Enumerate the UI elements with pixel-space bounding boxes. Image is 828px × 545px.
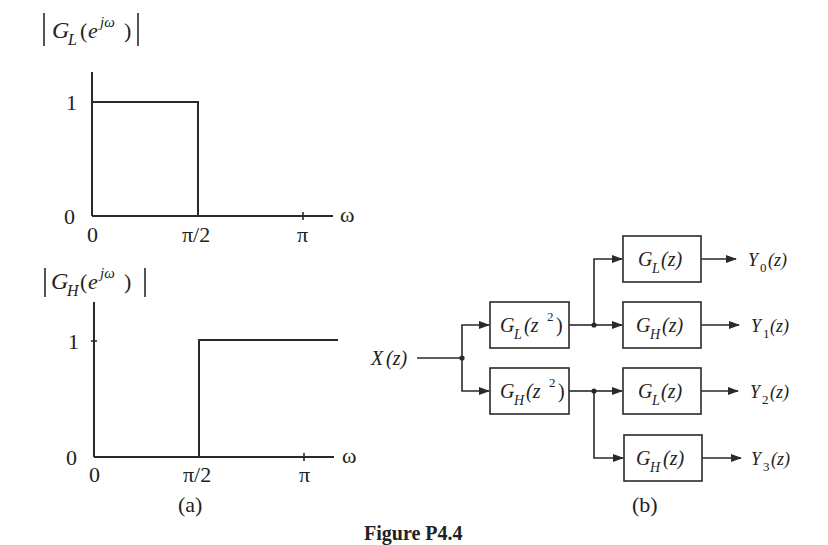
output-symbol: Y [751, 316, 763, 336]
input-symbol: X [370, 347, 384, 369]
title-subscript: L [67, 31, 77, 48]
input-argument: (z) [386, 347, 407, 370]
output-argument: (z) [770, 316, 789, 337]
figure-caption: Figure P4.4 [364, 522, 463, 545]
block-argument: (z) [661, 380, 682, 403]
output-argument: (z) [771, 449, 790, 470]
block-argument: (z) [662, 314, 683, 337]
block-superscript: 2 [549, 375, 556, 390]
block-subscript: H [649, 460, 661, 475]
lowpass-magnitude-plot: G L ( e jω ) 1 0 0 π/2 π ω [44, 13, 354, 247]
block-subscript: L [651, 261, 660, 276]
title-paren-close: ) [124, 269, 131, 294]
output-label-y0: Y 0 (z) [748, 250, 787, 275]
branch-to-y0-filter [594, 259, 622, 325]
x-tick-label-half-pi: π/2 [182, 222, 210, 247]
stage1-lowpass-block: G L (z 2 ) [490, 302, 569, 348]
title-superscript: jω [98, 14, 115, 30]
output-label-y3: Y 3 (z) [751, 449, 790, 474]
x-tick-label-half-pi: π/2 [183, 462, 211, 487]
title-symbol: G [52, 17, 69, 43]
branch-to-stage1-high [462, 358, 489, 391]
panel-b-label: (b) [632, 492, 658, 517]
lowpass-plot-title: G L ( e jω ) [44, 13, 138, 48]
block-paren-close: ) [556, 314, 563, 337]
x-axis-label-omega: ω [340, 202, 354, 227]
filter-bank-diagram: X (z) G L (z 2 ) G H (z 2 ) [370, 236, 790, 481]
output-argument: (z) [770, 382, 789, 403]
block-subscript: L [651, 393, 660, 408]
title-subscript: H [66, 282, 80, 299]
output-subscript: 3 [763, 459, 770, 474]
y-tick-label-0: 0 [64, 204, 75, 229]
output-symbol: Y [748, 250, 760, 270]
panel-a-label: (a) [178, 492, 202, 517]
stage2-block-y0: G L (z) [623, 236, 701, 282]
block-paren-close: ) [558, 380, 565, 403]
x-tick-label-0: 0 [87, 222, 98, 247]
stage2-block-y3: G H (z) [624, 435, 702, 481]
title-argument: e [88, 269, 98, 294]
title-paren-close: ) [124, 18, 131, 43]
block-subscript: H [513, 393, 525, 408]
stage2-block-y1: G H (z) [623, 302, 701, 348]
y-tick-label-1: 1 [68, 329, 79, 354]
block-symbol: G [636, 447, 651, 469]
output-subscript: 0 [760, 260, 767, 275]
title-superscript: jω [98, 265, 115, 281]
stage1-highpass-block: G H (z 2 ) [490, 368, 569, 414]
output-label-y1: Y 1 (z) [751, 316, 789, 341]
x-axis-label-omega: ω [342, 443, 356, 468]
highpass-plot-title: G H ( e jω ) [45, 265, 145, 299]
title-paren-open: ( [80, 18, 87, 43]
block-argument: (z [526, 380, 541, 403]
block-symbol: G [500, 314, 515, 336]
output-symbol: Y [751, 449, 763, 469]
y-tick-label-1: 1 [66, 90, 77, 115]
highpass-magnitude-plot: G H ( e jω ) 1 0 0 π/2 π ω [45, 265, 356, 487]
output-argument: (z) [768, 250, 787, 271]
figure-canvas: G L ( e jω ) 1 0 0 π/2 π ω G H ( e jω ) [0, 0, 828, 545]
branch-to-stage1-low [462, 325, 489, 358]
block-subscript: L [513, 327, 522, 342]
lowpass-response-curve [92, 102, 198, 216]
block-symbol: G [638, 380, 653, 402]
title-symbol: G [51, 268, 68, 294]
block-symbol: G [638, 248, 653, 270]
output-symbol: Y [750, 382, 762, 402]
block-superscript: 2 [547, 309, 554, 324]
y-tick-label-0: 0 [66, 445, 77, 470]
block-argument: (z) [661, 248, 682, 271]
title-argument: e [88, 18, 98, 43]
block-subscript: H [649, 327, 661, 342]
stage2-block-y2: G L (z) [623, 368, 701, 414]
output-subscript: 1 [763, 326, 770, 341]
block-symbol: G [636, 314, 651, 336]
x-tick-label-0: 0 [89, 462, 100, 487]
title-paren-open: ( [80, 269, 87, 294]
x-tick-label-pi: π [299, 462, 310, 487]
block-argument: (z [524, 314, 539, 337]
output-label-y2: Y 2 (z) [750, 382, 789, 407]
block-argument: (z) [663, 447, 684, 470]
x-tick-label-pi: π [297, 222, 308, 247]
input-label: X (z) [370, 347, 407, 370]
block-symbol: G [500, 380, 515, 402]
highpass-response-curve [94, 340, 338, 457]
output-subscript: 2 [762, 392, 769, 407]
branch-to-y3-filter [594, 391, 623, 458]
